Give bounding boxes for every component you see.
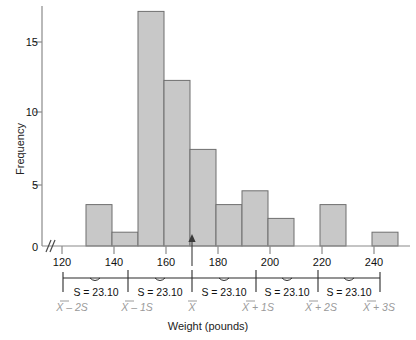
plot-area	[0, 0, 416, 268]
segment-label-5: S = 23.10	[319, 286, 379, 298]
segment-label-4: S = 23.10	[257, 286, 317, 298]
segment-label-2: S = 23.10	[130, 286, 190, 298]
bar-190-200	[242, 191, 268, 246]
bar-180-190	[216, 205, 242, 246]
histogram-figure: Frequency 15 10 5 0	[0, 0, 416, 340]
x-tick-label-140: 140	[99, 256, 129, 268]
bar-200-210	[268, 218, 294, 246]
y-tick-label-15: 15	[16, 36, 38, 48]
bar-220-230	[320, 205, 346, 246]
bars-group	[86, 11, 398, 246]
x-tick-label-160: 160	[151, 256, 181, 268]
x-ticks-group	[62, 246, 374, 254]
bar-160-170	[164, 80, 190, 246]
x-tick-label-120: 120	[47, 256, 77, 268]
y-tick-label-0: 0	[16, 241, 38, 253]
bar-150-160	[138, 11, 164, 246]
segment-label-3: S = 23.10	[194, 286, 254, 298]
mark-label-plus-3s: X + 3S	[351, 301, 407, 313]
segment-label-1: S = 23.10	[66, 286, 126, 298]
bar-140-150	[112, 232, 138, 246]
y-tick-label-10: 10	[16, 106, 38, 118]
bar-130-140	[86, 205, 112, 246]
x-tick-label-220: 220	[307, 256, 337, 268]
x-axis-title: Weight (pounds)	[0, 320, 416, 332]
mark-label-plus-1s: X + 1S	[230, 301, 286, 313]
mark-label-minus-1s: X – 1S	[109, 301, 165, 313]
x-tick-label-200: 200	[255, 256, 285, 268]
bar-170-180	[190, 149, 216, 246]
mark-label-mean: X	[177, 301, 207, 313]
x-tick-label-240: 240	[359, 256, 389, 268]
y-tick-label-5: 5	[16, 179, 38, 191]
x-tick-label-180: 180	[203, 256, 233, 268]
bar-240-250	[372, 232, 398, 246]
mark-label-minus-2s: X – 2S	[44, 301, 100, 313]
mark-label-plus-2s: X + 2S	[293, 301, 349, 313]
y-axis-title: Frequency	[14, 123, 26, 175]
